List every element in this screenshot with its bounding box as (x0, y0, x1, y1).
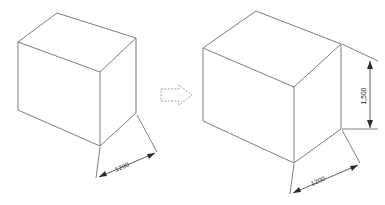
transformation-flow-arrow (161, 85, 192, 105)
left-box-figure (18, 13, 136, 146)
right-width-extension-near (290, 164, 294, 194)
drawing-svg: 1200 1,500 (0, 0, 385, 205)
right-width-arrowhead-start (293, 187, 301, 193)
right-box-height-dimension: 1,500 (342, 44, 378, 129)
left-dim-arrowhead-start (99, 171, 107, 177)
right-height-extension-top (342, 44, 378, 61)
right-dim-width-label: 1200 (310, 175, 327, 187)
right-width-arrowhead-end (350, 165, 358, 171)
left-dim-arrowhead-end (147, 153, 155, 159)
left-dim-width-label: 1200 (114, 161, 131, 173)
technical-drawing-canvas: 1200 1,500 (0, 0, 385, 205)
arrow-right-icon (161, 85, 192, 105)
right-width-dim-line (293, 165, 358, 193)
left-dim-extension-far (137, 115, 157, 152)
right-height-arrowhead-top (367, 61, 373, 69)
right-height-arrowhead-bottom (367, 120, 373, 128)
right-width-extension-far (342, 130, 360, 163)
left-dim-extension-near (96, 147, 100, 178)
right-dim-height-label: 1,500 (360, 87, 367, 104)
right-box-figure (203, 11, 341, 163)
